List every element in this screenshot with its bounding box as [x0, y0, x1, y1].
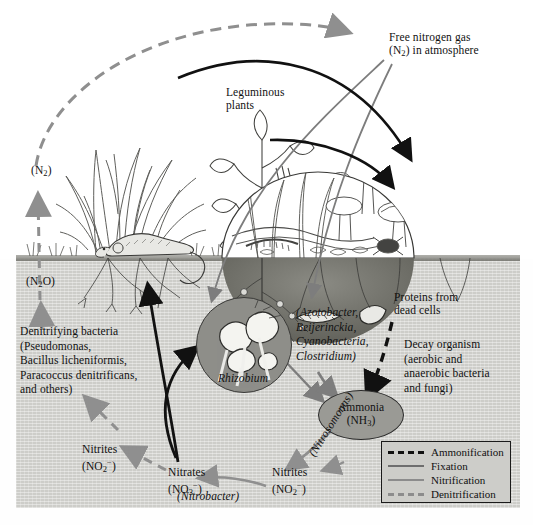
denitrifying-title: Denitrifying bacteria	[20, 324, 180, 339]
free-nitrogen-gas-line2: (N2) in atmosphere	[389, 44, 529, 60]
ammonia-formula: (NH3)	[338, 414, 384, 430]
legend-label-fixation: Fixation	[431, 460, 468, 472]
rhizobium-label: Rhizobium	[200, 372, 286, 385]
denitrifying-species-4: and others)	[20, 382, 180, 397]
legend-key-fixation	[388, 465, 424, 467]
denitrifying-species-2: Bacillus licheniformis,	[20, 353, 180, 368]
ground-surface-line	[16, 255, 520, 261]
free-nitrogen-gas-label: Free nitrogen gas (N2) in atmosphere	[389, 31, 529, 60]
denitrifying-bacteria-label: Denitrifying bacteria (Pseudomonas, Baci…	[20, 324, 180, 397]
denitrifying-species-3: Paracoccus denitrificans,	[20, 368, 180, 383]
decay-line2: (aerobic and	[404, 352, 522, 367]
proteins-line1: Proteins from	[394, 291, 504, 304]
legend-key-ammonification	[388, 451, 424, 454]
legend-row-nitrification: Nitrification	[388, 473, 506, 487]
nitrobacter-label: (Nitrobacter)	[177, 490, 239, 503]
free-fixer-1: (Azotobacter,	[296, 305, 400, 320]
legend: Ammonification Fixation Nitrification De…	[381, 441, 511, 503]
nitrites-left-formula: (NO2−)	[82, 456, 117, 476]
legend-row-ammonification: Ammonification	[388, 445, 506, 459]
proteins-dead-cells-label: Proteins from dead cells	[394, 291, 504, 317]
nitrites-left-label: Nitrites (NO2−)	[82, 443, 117, 476]
nitrites-right-label: Nitrites (NO2−)	[272, 466, 307, 499]
nitrates-name: Nitrates	[168, 466, 205, 479]
decay-line4: and fungi)	[404, 381, 522, 396]
denitrifying-species-1: (Pseudomonas,	[20, 339, 180, 354]
free-fixer-4: Clostridium)	[296, 349, 400, 364]
legend-row-denitrification: Denitrification	[388, 487, 506, 501]
leguminous-plants-line1: Leguminous	[226, 86, 326, 99]
nitrites-right-name: Nitrites	[272, 466, 307, 479]
free-fixer-2: Beijerinckia,	[296, 320, 400, 335]
legend-key-denitrification	[388, 493, 424, 496]
nitrogen-cycle-diagram: Rhizobium Ammonia (NH3) Free nitrogen ga…	[0, 0, 533, 525]
legend-row-fixation: Fixation	[388, 459, 506, 473]
proteins-line2: dead cells	[394, 304, 504, 317]
legend-key-nitrification	[388, 479, 424, 481]
free-nitrogen-gas-line1: Free nitrogen gas	[389, 31, 529, 44]
nitrites-right-formula: (NO2−)	[272, 479, 307, 499]
decay-organism-label: Decay organism (aerobic and anaerobic ba…	[404, 337, 522, 395]
legend-label-ammonification: Ammonification	[431, 446, 504, 458]
decay-line1: Decay organism	[404, 337, 522, 352]
free-living-fixers-label: (Azotobacter, Beijerinckia, Cyanobacteri…	[296, 305, 400, 363]
legend-label-nitrification: Nitrification	[431, 474, 485, 486]
leguminous-plants-label: Leguminous plants	[226, 86, 326, 112]
legend-label-denitrification: Denitrification	[431, 488, 496, 500]
leguminous-plants-line2: plants	[226, 99, 326, 112]
n2o-gas-label: (N2O)	[26, 275, 55, 291]
free-fixer-3: Cyanobacteria,	[296, 334, 400, 349]
n2-gas-label: (N2)	[31, 164, 52, 180]
decay-line3: anaerobic bacteria	[404, 366, 522, 381]
nitrites-left-name: Nitrites	[82, 443, 117, 456]
